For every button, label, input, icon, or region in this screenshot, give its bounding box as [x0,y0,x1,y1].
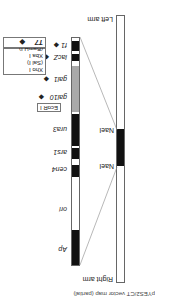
cen4-segment [72,165,79,177]
cen4-label: cen4 [52,165,67,173]
gal10-label: gal10 [50,93,67,101]
t7-box: T7 ◆ [3,37,46,48]
mcs-sites-box: Xho I (Sal I) Xba I (BamH I) [3,48,46,75]
gal1-label: gal1 [54,75,67,83]
gal10-bullet-icon: ◆ [39,93,44,101]
t7-bullet-icon: ◆ [20,39,25,46]
t7-label: T7 [35,39,43,46]
f1-label: f1 [61,41,67,49]
ura3-label: ura3 [53,125,67,133]
ars1-segment [72,148,79,159]
ap-segment [72,230,79,265]
ecor1-label: EcoR I [40,105,58,111]
site-xba1: Xba I [6,52,43,59]
ura3-segment [72,114,79,146]
plasmid-bar [71,37,80,266]
ars1-label: ars1 [53,148,67,156]
gal1-segment [72,66,79,89]
f1-bullet-icon: ◆ [54,41,59,49]
gal10-segment [72,89,79,112]
gal1-bullet-icon: ◆ [44,75,49,83]
lacz-segment [72,54,79,61]
ecor1-site-box: EcoR I [37,103,61,112]
site-xho1: Xho I [6,66,43,73]
ap-label: Ap [58,245,67,253]
plasmid-map-figure: pYES2/CT vector map (partial) Left arm R… [0,0,171,297]
site-sal1: (Sal I) [6,59,43,66]
lacz-label: lacZ [54,53,67,61]
ori-label: ori [59,205,67,213]
f1-segment [72,41,79,51]
